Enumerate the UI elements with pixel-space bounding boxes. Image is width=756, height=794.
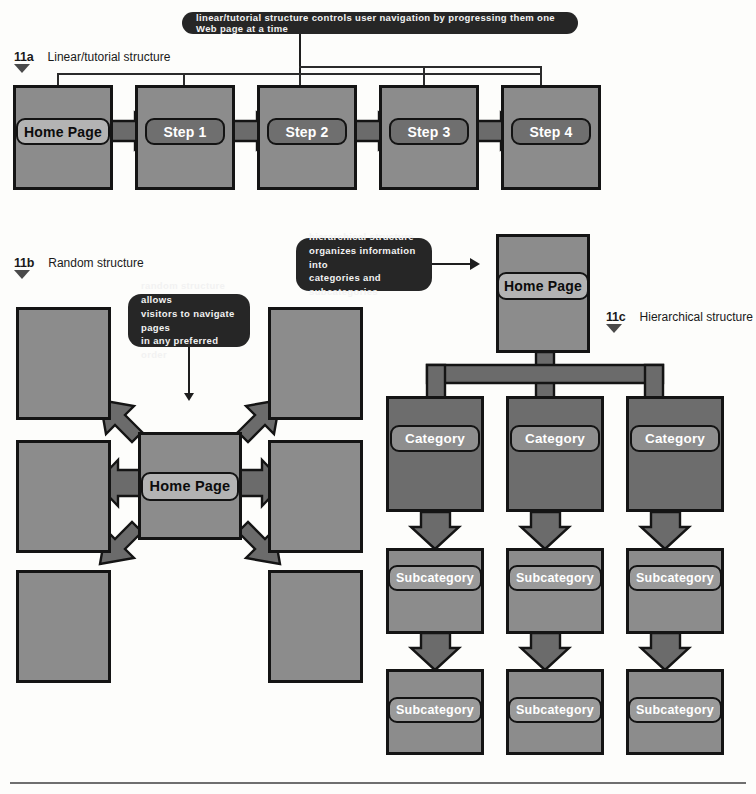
hier-subcategory-label-4[interactable]: Subcategory (388, 697, 482, 723)
hier-category-box-2[interactable] (506, 396, 604, 512)
figure-number-11a: 11a (14, 50, 34, 64)
figure-title-11a: Linear/tutorial structure (48, 50, 171, 64)
figure-title-11c: Hierarchical structure (640, 310, 753, 324)
callout-hier-stem (432, 263, 472, 265)
hier-root-label[interactable]: Home Page (497, 272, 589, 300)
figure-label-11a: 11a Linear/tutorial structure (14, 50, 170, 64)
linear-node-label-2[interactable]: Step 1 (145, 118, 225, 145)
figure-canvas: .ar{fill:#6b6b6b;stroke:#141414;stroke-w… (0, 0, 756, 794)
hier-category-label-2[interactable]: Category (510, 425, 600, 452)
hier-subcategory-box-1[interactable] (386, 548, 484, 634)
hier-category-label-1[interactable]: Category (390, 425, 480, 452)
callout-hier-arrowhead (470, 258, 480, 270)
linear-bracket-bar-upper (299, 66, 542, 68)
callout-linear-text: linear/tutorial structure controls user … (196, 12, 564, 34)
figure-label-11c: 11c Hierarchical structure (606, 310, 753, 324)
page-bottom-rule (10, 782, 746, 784)
random-page-box-2[interactable] (16, 440, 111, 553)
callout-random-line-1: random structure allows (141, 279, 237, 307)
random-page-box-4[interactable] (268, 307, 363, 420)
hier-subcategory-label-1[interactable]: Subcategory (388, 565, 482, 591)
hier-subcategory-box-3[interactable] (626, 548, 724, 634)
hier-category-box-3[interactable] (626, 396, 724, 512)
callout-hier-line-2: organizes information into (309, 244, 419, 272)
linear-node-label-1[interactable]: Home Page (16, 118, 110, 145)
callout-hierarchical: hierarchical structure organizes informa… (296, 238, 432, 291)
linear-bracket-drop-3 (299, 73, 301, 85)
figure-label-11b: 11b Random structure (14, 256, 144, 270)
figure-number-11b: 11b (14, 256, 34, 270)
linear-bracket-drop-1 (57, 73, 59, 85)
callout-random-line-2: visitors to navigate pages (141, 307, 237, 335)
linear-bracket-drop-4 (423, 66, 425, 85)
figure-number-11c: 11c (606, 310, 626, 324)
hier-category-label-3[interactable]: Category (630, 425, 720, 452)
hier-subcategory-label-2[interactable]: Subcategory (508, 565, 602, 591)
random-page-box-5[interactable] (268, 440, 363, 553)
figure-marker-11c (606, 324, 622, 333)
linear-bracket-drop-5 (540, 66, 542, 85)
linear-bracket-drop-2 (183, 73, 185, 85)
figure-title-11b: Random structure (48, 256, 143, 270)
linear-node-label-5[interactable]: Step 4 (511, 118, 591, 145)
random-page-box-6[interactable] (268, 570, 363, 683)
random-page-box-1[interactable] (16, 307, 111, 420)
hier-category-box-1[interactable] (386, 396, 484, 512)
callout-linear: linear/tutorial structure controls user … (182, 12, 578, 34)
figure-marker-11b (14, 270, 30, 279)
callout-random-arrowhead (184, 393, 194, 401)
callout-linear-stem (299, 34, 301, 74)
random-page-box-3[interactable] (16, 570, 111, 683)
figure-marker-11a (14, 64, 30, 73)
hier-subcategory-label-6[interactable]: Subcategory (628, 697, 722, 723)
hier-subcategory-label-5[interactable]: Subcategory (508, 697, 602, 723)
random-center-label[interactable]: Home Page (141, 472, 239, 501)
hier-subcategory-label-3[interactable]: Subcategory (628, 565, 722, 591)
hier-subcategory-box-2[interactable] (506, 548, 604, 634)
linear-node-label-4[interactable]: Step 3 (389, 118, 469, 145)
callout-hier-line-1: hierarchical structure (309, 230, 414, 244)
callout-random: random structure allows visitors to navi… (128, 294, 250, 347)
callout-hier-line-3: categories and subcategories (309, 271, 419, 299)
callout-random-stem (188, 347, 190, 395)
linear-node-label-3[interactable]: Step 2 (267, 118, 347, 145)
hierarchy-connectors (427, 352, 663, 400)
